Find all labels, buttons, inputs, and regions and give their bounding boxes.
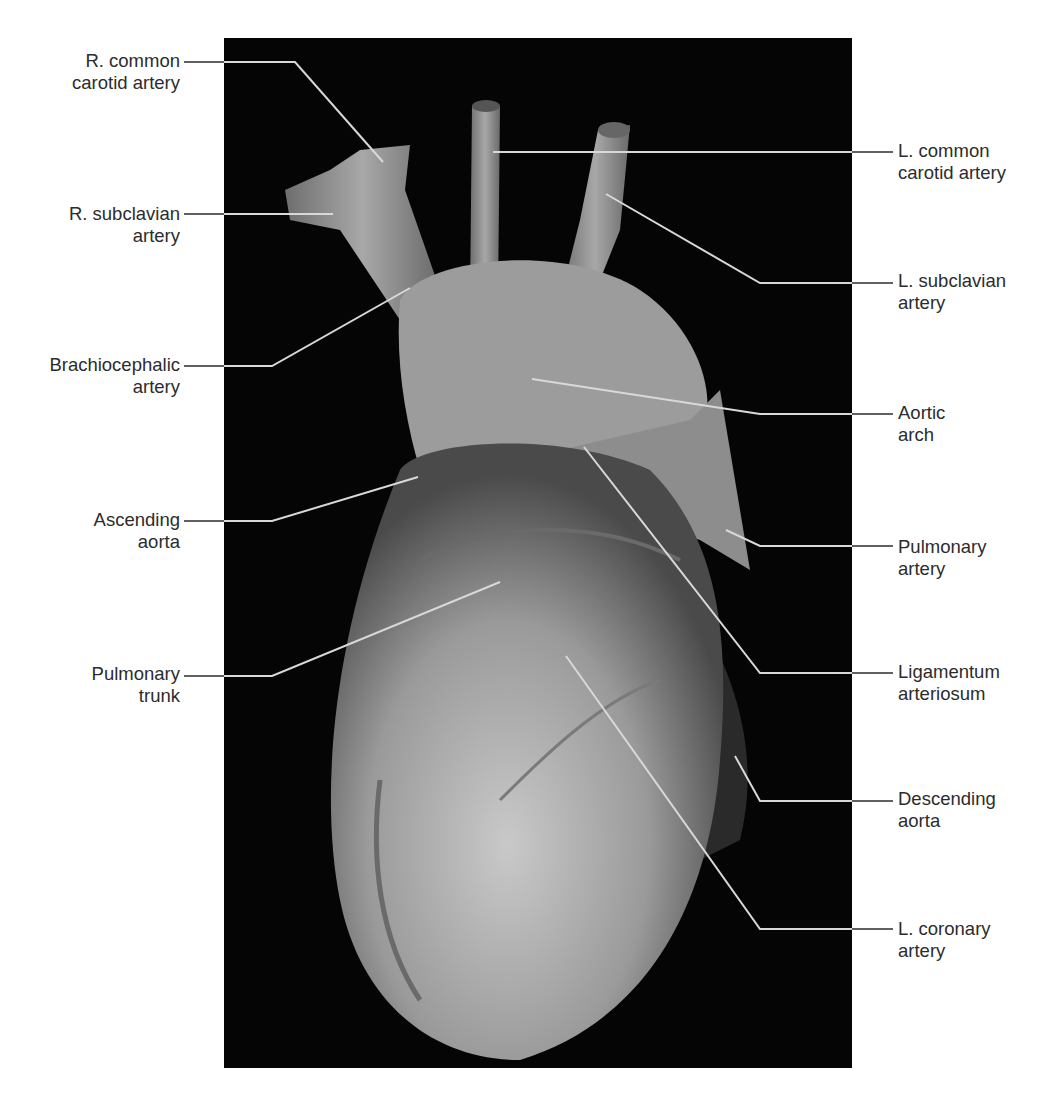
- label-l-coronary-artery: L. coronaryartery: [898, 918, 991, 962]
- label-line: aorta: [898, 810, 996, 832]
- label-descending-aorta: Descendingaorta: [898, 788, 996, 832]
- label-line: L. common: [898, 140, 1006, 162]
- label-l-common-carotid-artery: L. commoncarotid artery: [898, 140, 1006, 184]
- label-aortic-arch: Aorticarch: [898, 402, 945, 446]
- label-line: Pulmonary: [898, 536, 986, 558]
- label-ligamentum-arteriosum: Ligamentumarteriosum: [898, 661, 1000, 705]
- label-line: arch: [898, 424, 945, 446]
- label-line: artery: [69, 225, 180, 247]
- label-ascending-aorta: Ascendingaorta: [94, 509, 180, 553]
- label-r-common-carotid-artery: R. commoncarotid artery: [72, 50, 180, 94]
- label-line: Descending: [898, 788, 996, 810]
- label-pulmonary-artery: Pulmonaryartery: [898, 536, 986, 580]
- heart-photograph: [224, 38, 852, 1068]
- label-line: R. subclavian: [69, 203, 180, 225]
- label-line: Ascending: [94, 509, 180, 531]
- label-line: arteriosum: [898, 683, 1000, 705]
- label-line: Brachiocephalic: [49, 354, 180, 376]
- heart-illustration: [224, 38, 852, 1068]
- label-line: Ligamentum: [898, 661, 1000, 683]
- label-line: Pulmonary: [92, 663, 180, 685]
- heart-body-shape: [331, 444, 723, 1060]
- label-line: carotid artery: [72, 72, 180, 94]
- label-line: carotid artery: [898, 162, 1006, 184]
- label-line: artery: [898, 558, 986, 580]
- label-line: artery: [898, 292, 1006, 314]
- label-line: L. coronary: [898, 918, 991, 940]
- label-line: aorta: [94, 531, 180, 553]
- label-line: L. subclavian: [898, 270, 1006, 292]
- anatomy-figure: R. commoncarotid arteryR. subclavianarte…: [0, 0, 1048, 1115]
- label-line: Aortic: [898, 402, 945, 424]
- label-line: R. common: [72, 50, 180, 72]
- label-pulmonary-trunk: Pulmonarytrunk: [92, 663, 180, 707]
- label-line: trunk: [92, 685, 180, 707]
- label-brachiocephalic-artery: Brachiocephalicartery: [49, 354, 180, 398]
- label-line: artery: [898, 940, 991, 962]
- label-r-subclavian-artery: R. subclavianartery: [69, 203, 180, 247]
- label-l-subclavian-artery: L. subclavianartery: [898, 270, 1006, 314]
- label-line: artery: [49, 376, 180, 398]
